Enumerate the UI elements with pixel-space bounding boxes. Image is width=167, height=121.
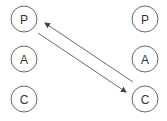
right-node-p: P [132, 6, 158, 32]
left-node-p: P [11, 6, 37, 32]
node-label: P [141, 13, 149, 27]
arrow-right-c-to-left-p [45, 23, 133, 82]
left-node-a: A [11, 46, 37, 72]
node-label: P [20, 13, 28, 27]
arrow-left-p-to-right-c [38, 33, 126, 92]
diagram-canvas: P A C P A C [0, 0, 167, 121]
node-label: A [141, 53, 149, 67]
right-node-a: A [132, 46, 158, 72]
node-label: C [141, 93, 150, 107]
node-label: A [20, 53, 28, 67]
left-node-c: C [11, 86, 37, 112]
node-label: C [20, 93, 29, 107]
right-node-c: C [132, 86, 158, 112]
